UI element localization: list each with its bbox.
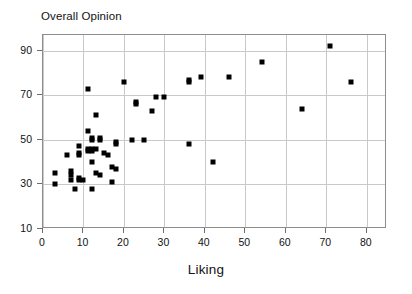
- data-point: [89, 137, 94, 142]
- data-point: [105, 153, 110, 158]
- y-axis-tick-label: 30: [6, 177, 32, 189]
- gridline-horizontal: [43, 184, 385, 185]
- data-point: [328, 44, 333, 49]
- data-point: [113, 142, 118, 147]
- data-point: [210, 160, 215, 165]
- data-point: [89, 160, 94, 165]
- data-point: [121, 79, 126, 84]
- data-point: [93, 146, 98, 151]
- data-point: [89, 186, 94, 191]
- scatter-chart: Overall Opinion 010203040506070801030507…: [0, 0, 412, 294]
- gridline-vertical: [83, 35, 84, 227]
- data-point: [81, 177, 86, 182]
- data-point: [154, 95, 159, 100]
- data-point: [134, 102, 139, 107]
- x-axis-tick-label: 0: [27, 236, 57, 248]
- gridline-vertical: [124, 35, 125, 227]
- data-point: [65, 153, 70, 158]
- gridline-horizontal: [43, 95, 385, 96]
- gridline-vertical: [286, 35, 287, 227]
- y-axis-tick: [37, 50, 42, 51]
- y-axis-tick: [37, 228, 42, 229]
- y-axis-tick-label: 50: [6, 133, 32, 145]
- data-point: [85, 128, 90, 133]
- data-point: [348, 79, 353, 84]
- x-axis-tick-label: 70: [310, 236, 340, 248]
- x-axis-tick: [42, 228, 43, 233]
- data-point: [77, 144, 82, 149]
- x-axis-tick: [325, 228, 326, 233]
- gridline-vertical: [245, 35, 246, 227]
- x-axis-tick: [82, 228, 83, 233]
- data-point: [97, 137, 102, 142]
- y-axis-tick: [37, 94, 42, 95]
- data-point: [186, 142, 191, 147]
- x-axis-tick-label: 20: [108, 236, 138, 248]
- x-axis-tick: [204, 228, 205, 233]
- y-axis-tick: [37, 139, 42, 140]
- gridline-vertical: [205, 35, 206, 227]
- x-axis-tick-label: 40: [189, 236, 219, 248]
- data-point: [77, 153, 82, 158]
- data-point: [130, 137, 135, 142]
- data-point: [73, 186, 78, 191]
- gridline-horizontal: [43, 51, 385, 52]
- data-point: [150, 108, 155, 113]
- data-point: [85, 86, 90, 91]
- data-point: [162, 95, 167, 100]
- gridline-vertical: [367, 35, 368, 227]
- data-point: [142, 137, 147, 142]
- x-axis-tick-label: 60: [270, 236, 300, 248]
- x-axis-label: Liking: [0, 262, 412, 277]
- x-axis-tick: [285, 228, 286, 233]
- y-axis-tick-label: 90: [6, 44, 32, 56]
- gridline-horizontal: [43, 140, 385, 141]
- chart-title: Overall Opinion: [41, 9, 122, 23]
- x-axis-tick-label: 80: [351, 236, 381, 248]
- data-point: [186, 79, 191, 84]
- gridline-vertical: [164, 35, 165, 227]
- gridline-vertical: [326, 35, 327, 227]
- data-point: [69, 177, 74, 182]
- data-point: [198, 75, 203, 80]
- x-axis-tick: [123, 228, 124, 233]
- x-axis-tick-label: 50: [229, 236, 259, 248]
- data-point: [97, 173, 102, 178]
- data-point: [109, 180, 114, 185]
- y-axis-tick-label: 10: [6, 222, 32, 234]
- data-point: [93, 113, 98, 118]
- x-axis-tick: [366, 228, 367, 233]
- data-point: [300, 106, 305, 111]
- data-point: [53, 171, 58, 176]
- x-axis-tick: [244, 228, 245, 233]
- y-axis-tick: [37, 183, 42, 184]
- data-point: [259, 59, 264, 64]
- x-axis-tick-label: 10: [67, 236, 97, 248]
- data-point: [227, 75, 232, 80]
- gridline-vertical: [43, 35, 44, 227]
- x-axis-tick-label: 30: [148, 236, 178, 248]
- plot-area: [42, 34, 386, 228]
- data-point: [113, 166, 118, 171]
- y-axis-tick-label: 70: [6, 88, 32, 100]
- x-axis-tick: [163, 228, 164, 233]
- data-point: [53, 182, 58, 187]
